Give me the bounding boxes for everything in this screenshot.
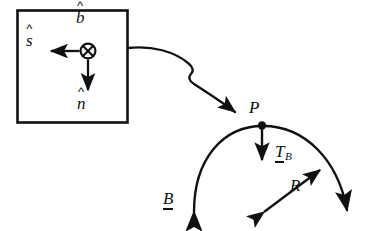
b-hat-accent: ^: [77, 0, 83, 12]
label-b-hat: ^ b: [76, 9, 85, 26]
circle-x-icon: [81, 44, 96, 59]
label-radius-r: R: [290, 177, 300, 194]
trajectory-curve-B: [194, 126, 347, 212]
label-point-p: P: [249, 99, 259, 116]
diagram-canvas: [0, 0, 377, 231]
s-hat-accent: ^: [26, 22, 32, 35]
frenet-frame-inset-box: [18, 11, 128, 123]
label-tangent-vector-tb: TB: [275, 143, 292, 163]
n-hat-accent: ^: [78, 85, 84, 98]
inset-to-point-leader: [128, 47, 235, 112]
b-vector-letter: B: [163, 190, 173, 210]
label-s-hat: ^ s: [26, 32, 33, 49]
label-n-hat: ^ n: [77, 95, 86, 112]
physics-vector-diagram: ^ s ^ b ^ n P TB B R: [0, 0, 377, 231]
label-curve-b: B: [163, 190, 173, 210]
tb-subscript: B: [285, 150, 292, 162]
tb-letter: T: [275, 143, 284, 163]
